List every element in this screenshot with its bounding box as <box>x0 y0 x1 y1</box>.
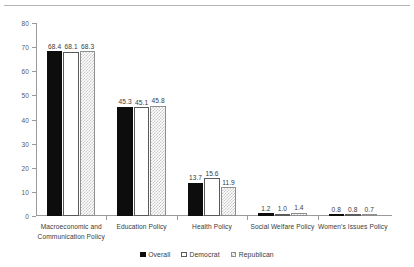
bar-republican-0 <box>80 51 96 216</box>
y-tick <box>32 120 36 121</box>
bar-value-label: 45.3 <box>118 98 131 105</box>
y-tick <box>32 47 36 48</box>
legend-label: Democrat <box>189 251 219 258</box>
y-tick <box>32 95 36 96</box>
legend-label: Overall <box>148 251 170 258</box>
y-tick-label: 60 <box>22 68 29 75</box>
legend-label: Republican <box>239 251 274 258</box>
bar-republican-3 <box>291 213 307 216</box>
y-tick-label: 50 <box>22 92 29 99</box>
y-tick <box>32 192 36 193</box>
bar-republican-4 <box>362 214 378 216</box>
bar-value-label: 45.1 <box>135 99 148 106</box>
bar-value-label: 15.6 <box>205 170 218 177</box>
y-tick-label: 70 <box>22 44 29 51</box>
bar-value-label: 68.1 <box>65 43 78 50</box>
x-axis-separator <box>106 216 107 220</box>
bar-republican-1 <box>150 106 166 216</box>
bar-value-label: 45.8 <box>151 97 164 104</box>
y-tick <box>32 23 36 24</box>
bar-democrat-3 <box>275 214 291 216</box>
y-tick-label: 80 <box>22 20 29 27</box>
bar-value-label: 1.2 <box>261 205 270 212</box>
legend-item-democrat[interactable]: Democrat <box>181 251 219 258</box>
top-divider-rule <box>4 5 410 6</box>
legend-swatch-icon <box>181 252 187 258</box>
y-tick <box>32 168 36 169</box>
bar-value-label: 0.8 <box>332 206 341 213</box>
bar-overall-4 <box>329 214 345 216</box>
bar-value-label: 13.7 <box>189 174 202 181</box>
y-axis-line <box>36 23 37 216</box>
bar-value-label: 68.3 <box>81 43 94 50</box>
x-axis-separator <box>177 216 178 220</box>
bar-overall-1 <box>117 107 133 216</box>
y-tick-label: 30 <box>22 140 29 147</box>
legend-swatch-icon <box>231 252 237 258</box>
bar-value-label: 0.7 <box>365 206 374 213</box>
plot-area: 01020304050607080 68.468.168.345.345.145… <box>36 23 388 216</box>
x-axis-separator <box>318 216 319 220</box>
bar-overall-3 <box>258 213 274 216</box>
bar-chart: 01020304050607080 68.468.168.345.345.145… <box>0 0 414 267</box>
bar-overall-2 <box>188 183 204 216</box>
bar-value-label: 11.9 <box>222 179 235 186</box>
y-tick-label: 0 <box>25 213 29 220</box>
y-tick-label: 40 <box>22 116 29 123</box>
chart-legend: OverallDemocratRepublican <box>0 251 414 258</box>
y-tick <box>32 144 36 145</box>
bar-democrat-0 <box>63 52 79 216</box>
bar-value-label: 0.8 <box>348 206 357 213</box>
bar-republican-2 <box>221 187 237 216</box>
bar-value-label: 1.0 <box>278 205 287 212</box>
category-label-4: Women's Issues Policy <box>310 222 396 232</box>
y-tick-label: 20 <box>22 164 29 171</box>
bar-value-label: 68.4 <box>48 43 61 50</box>
bar-overall-0 <box>47 51 63 216</box>
bar-democrat-1 <box>134 107 150 216</box>
y-tick-label: 10 <box>22 188 29 195</box>
legend-item-overall[interactable]: Overall <box>140 251 170 258</box>
bar-value-label: 1.4 <box>294 204 303 211</box>
bar-democrat-4 <box>345 214 361 216</box>
legend-swatch-icon <box>140 252 146 258</box>
legend-item-republican[interactable]: Republican <box>231 251 274 258</box>
x-axis-separator <box>247 216 248 220</box>
y-tick <box>32 216 36 217</box>
bar-democrat-2 <box>204 178 220 216</box>
y-tick <box>32 71 36 72</box>
